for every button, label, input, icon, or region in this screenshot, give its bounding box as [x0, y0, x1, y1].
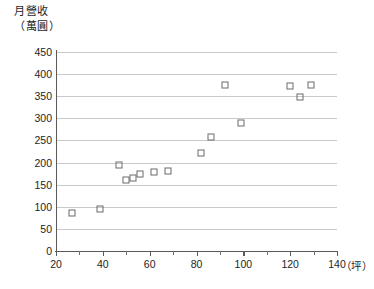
x-axis-tick-label: 100 [235, 258, 253, 270]
y-axis-title-line2: （萬圓） [14, 19, 60, 34]
gridline [56, 185, 337, 186]
data-point [165, 167, 172, 174]
y-axis-tick-label: 350 [22, 90, 52, 102]
x-axis-tick [103, 251, 104, 256]
y-axis-tick-label: 150 [22, 179, 52, 191]
data-point [287, 83, 294, 90]
data-point [137, 170, 144, 177]
data-point [97, 205, 104, 212]
x-axis-tick-label: 20 [50, 258, 62, 270]
x-axis-tick [290, 251, 291, 256]
x-axis-tick [150, 251, 151, 256]
gridline [56, 118, 337, 119]
y-axis-tick-label: 400 [22, 68, 52, 80]
y-axis-title-line1: 月營收 [14, 4, 60, 19]
x-axis-tick-minor [126, 251, 127, 255]
x-axis-tick-label: 80 [191, 258, 203, 270]
y-axis-tick-label: 0 [22, 245, 52, 257]
gridline [56, 96, 337, 97]
data-point [221, 82, 228, 89]
data-point [130, 175, 137, 182]
y-axis-tick-label: 250 [22, 134, 52, 146]
data-point [296, 94, 303, 101]
x-axis-tick [197, 251, 198, 256]
x-axis-tick [56, 251, 57, 256]
gridline [56, 74, 337, 75]
y-axis-tick-label: 50 [22, 223, 52, 235]
y-axis-tick-label: 450 [22, 46, 52, 58]
x-axis-unit-label: （坪） [341, 258, 372, 273]
y-axis-tick-label: 300 [22, 112, 52, 124]
y-axis-title: 月營收 （萬圓） [14, 4, 60, 34]
x-axis-tick-label: 60 [144, 258, 156, 270]
scatter-chart: 月營收 （萬圓） 050100150200250300350400450 204… [0, 0, 374, 289]
plot-area [56, 52, 337, 251]
y-axis-ticks: 050100150200250300350400450 [18, 52, 52, 251]
x-axis-tick-minor [79, 251, 80, 255]
data-point [237, 119, 244, 126]
x-axis-tick-minor [220, 251, 221, 255]
gridline [56, 140, 337, 141]
y-axis-tick-label: 200 [22, 157, 52, 169]
gridline [56, 229, 337, 230]
data-point [308, 82, 315, 89]
x-axis-tick-minor [267, 251, 268, 255]
data-point [123, 177, 130, 184]
x-axis-tick [243, 251, 244, 256]
data-point [198, 149, 205, 156]
y-axis-tick-label: 100 [22, 201, 52, 213]
data-point [151, 169, 158, 176]
x-axis-tick-minor [314, 251, 315, 255]
data-point [207, 133, 214, 140]
data-point [69, 210, 76, 217]
gridline [56, 52, 337, 53]
data-point [116, 161, 123, 168]
x-axis-tick-label: 40 [97, 258, 109, 270]
x-axis-tick-label: 120 [281, 258, 299, 270]
y-axis-line [56, 50, 57, 252]
gridline [56, 163, 337, 164]
x-axis-tick-minor [173, 251, 174, 255]
x-axis-tick [337, 251, 338, 256]
